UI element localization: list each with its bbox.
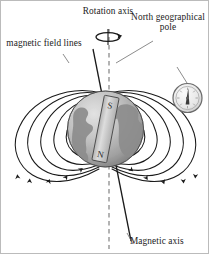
leader-north-pole: [116, 41, 153, 63]
label-magnetic-field-lines: magnetic field lines: [5, 38, 83, 48]
leader-magnetic-field: [63, 54, 69, 63]
label-north-geographical-pole: North geographical pole: [128, 12, 208, 33]
magnetic-field-figure: S N: [0, 0, 209, 254]
compass-icon: [173, 84, 202, 113]
leader-compass: [177, 67, 187, 83]
label-magnetic-axis: Magnetic axis: [130, 236, 184, 246]
